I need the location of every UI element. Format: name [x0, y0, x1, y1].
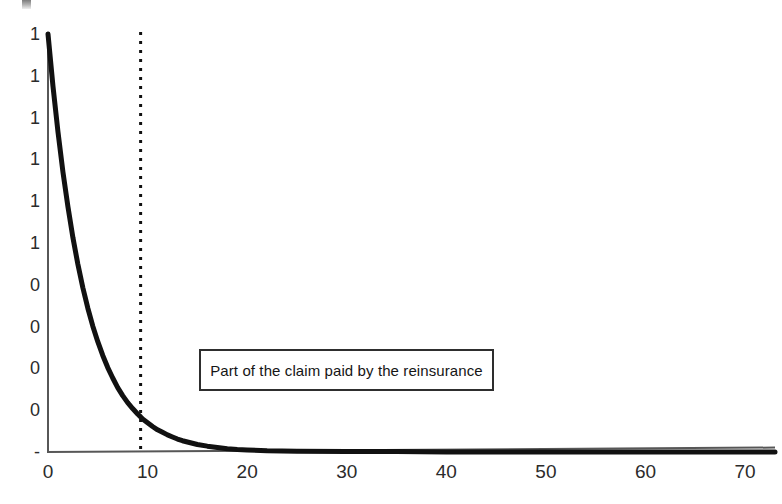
annotation-text: Part of the claim paid by the reinsuranc…	[210, 362, 483, 379]
reinsurance-claim-chart: 1111110000- 010203040506070 Part of the …	[0, 0, 782, 504]
plot-area	[0, 0, 782, 504]
annotation-box: Part of the claim paid by the reinsuranc…	[199, 349, 494, 391]
